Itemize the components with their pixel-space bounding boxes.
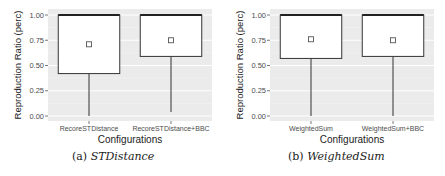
x-tick-label: WeightedSum xyxy=(289,125,333,133)
caption-a-label: (a) xyxy=(72,150,87,163)
caption-a-name: STDistance xyxy=(91,150,155,163)
caption-b-label: (b) xyxy=(288,150,304,163)
box xyxy=(362,15,424,56)
x-tick-label: RecoreSTDistance+BBC xyxy=(132,125,209,132)
chart-panel-a: 0.000.250.500.751.00RecoreSTDistanceReco… xyxy=(0,0,222,150)
caption-b: (b) WeightedSum xyxy=(288,150,385,163)
y-tick-label: 1.00 xyxy=(251,11,266,20)
caption-b-name: WeightedSum xyxy=(307,150,385,163)
x-tick-label: RecoreSTDistance xyxy=(60,125,119,132)
caption-a: (a) STDistance xyxy=(72,150,154,163)
y-tick-label: 0.00 xyxy=(29,112,44,121)
y-tick-label: 1.00 xyxy=(29,11,44,20)
y-tick-label: 0.50 xyxy=(251,61,266,70)
x-tick-label: WeightedSum+BBC xyxy=(362,125,424,133)
y-tick-label: 0.25 xyxy=(29,86,44,95)
y-axis-title: Reproduction Ratio (perc) xyxy=(234,11,245,120)
x-axis-title: Configurations xyxy=(320,134,384,145)
y-tick-label: 0.50 xyxy=(29,61,44,70)
chart-panel-b: 0.000.250.500.751.00WeightedSumWeightedS… xyxy=(222,0,444,150)
y-tick-label: 0.75 xyxy=(251,36,266,45)
box xyxy=(58,15,120,74)
y-tick-label: 0.75 xyxy=(29,36,44,45)
y-axis-title: Reproduction Ratio (perc) xyxy=(12,11,23,120)
y-tick-label: 0.00 xyxy=(251,112,266,121)
x-axis-title: Configurations xyxy=(98,134,162,145)
boxplot-b: 0.000.250.500.751.00WeightedSumWeightedS… xyxy=(222,0,444,150)
y-tick-label: 0.25 xyxy=(251,86,266,95)
boxplot-a: 0.000.250.500.751.00RecoreSTDistanceReco… xyxy=(0,0,222,150)
box xyxy=(140,15,202,56)
